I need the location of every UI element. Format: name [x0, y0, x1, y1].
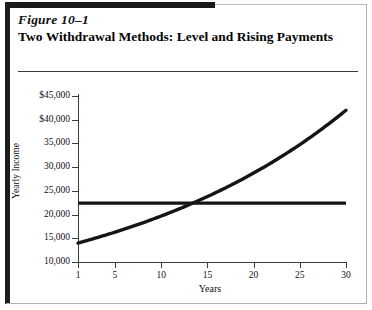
plot-svg — [0, 80, 372, 300]
chart-plot-area: 10,00015,00020,00025,00030,00035,000$40,… — [0, 80, 372, 300]
figure-title: Two Withdrawal Methods: Level and Rising… — [18, 29, 348, 46]
top-accent-bar — [5, 2, 215, 8]
bottom-border — [6, 303, 367, 304]
figure-number: Figure 10–1 — [18, 12, 358, 28]
header-divider — [18, 71, 358, 72]
top-thin-rule — [215, 4, 367, 5]
figure-header: Figure 10–1 Two Withdrawal Methods: Leve… — [18, 12, 358, 46]
series-rising-payments — [78, 110, 346, 243]
figure-frame: Figure 10–1 Two Withdrawal Methods: Leve… — [0, 0, 372, 310]
